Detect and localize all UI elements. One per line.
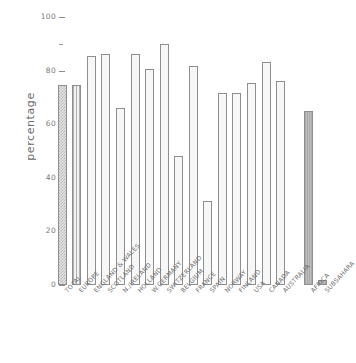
- bar[interactable]: [160, 44, 169, 285]
- bar[interactable]: [247, 83, 256, 285]
- y-tick-label: 0: [0, 280, 56, 289]
- bar[interactable]: [101, 54, 110, 285]
- plot-area: [55, 17, 330, 285]
- bar[interactable]: [276, 81, 285, 285]
- bar[interactable]: [87, 56, 96, 285]
- y-tick-label: 60: [0, 119, 56, 128]
- bar[interactable]: [304, 111, 313, 285]
- y-tick-label: 100: [0, 12, 56, 21]
- bar[interactable]: [145, 69, 154, 285]
- bar[interactable]: [58, 85, 67, 285]
- y-tick-label: 80: [0, 66, 56, 75]
- bar[interactable]: [189, 66, 198, 285]
- bar[interactable]: [262, 62, 271, 286]
- bar[interactable]: [232, 93, 241, 285]
- y-tick-label: 20: [0, 226, 56, 235]
- bar[interactable]: [218, 93, 227, 285]
- y-tick-label: 40: [0, 173, 56, 182]
- bar[interactable]: [72, 85, 81, 285]
